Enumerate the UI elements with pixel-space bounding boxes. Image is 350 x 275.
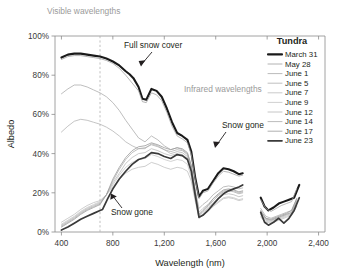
- legend-label: June 14: [285, 117, 313, 126]
- y-tick-label: 40%: [33, 150, 49, 159]
- x-tick-label: 2,400: [308, 239, 329, 248]
- x-tick-label: 1,200: [154, 239, 175, 248]
- legend-label: June 9: [285, 98, 308, 107]
- legend-label: June 23: [285, 136, 313, 145]
- x-tick-label: 2,000: [257, 239, 278, 248]
- x-tick-label: 400: [55, 239, 69, 248]
- annotation-infrared-wavelengths: Infrared wavelengths: [184, 84, 262, 94]
- y-tick-label: 0%: [37, 228, 49, 237]
- legend-label: March 31: [285, 50, 318, 59]
- y-tick-label: 100%: [28, 32, 49, 41]
- y-tick-label: 20%: [33, 189, 49, 198]
- y-tick-label: 60%: [33, 110, 49, 119]
- legend-label: June 17: [285, 127, 313, 136]
- annotation-snow-gone-lower: Snow gone: [111, 207, 153, 217]
- legend-label: May 28: [285, 60, 311, 69]
- y-tick-label: 80%: [33, 71, 49, 80]
- x-axis-title: Wavelength (nm): [155, 258, 225, 268]
- legend-label: June 12: [285, 108, 313, 117]
- annotation-full-snow-cover: Full snow cover: [124, 40, 182, 50]
- annotation-visible-wavelengths: Visible wavelengths: [47, 6, 120, 16]
- albedo-spectral-chart: 4008001,2001,6002,0002,400 0%20%40%60%80…: [0, 0, 350, 275]
- legend-label: June 5: [285, 79, 309, 88]
- legend-title: Tundra: [277, 36, 308, 46]
- chart-canvas: 4008001,2001,6002,0002,400 0%20%40%60%80…: [0, 0, 350, 275]
- x-tick-label: 800: [106, 239, 120, 248]
- y-axis-title: Albedo: [6, 120, 16, 149]
- legend-label: June 1: [285, 69, 308, 78]
- annotation-snow-gone-upper: Snow gone: [222, 120, 264, 130]
- legend-label: June 7: [285, 88, 308, 97]
- x-tick-label: 1,600: [205, 239, 226, 248]
